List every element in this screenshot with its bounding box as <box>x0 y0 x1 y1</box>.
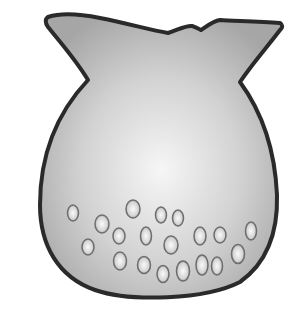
bubble <box>214 227 226 243</box>
bubble <box>246 222 257 240</box>
bubble <box>126 200 140 218</box>
bubble <box>177 261 190 281</box>
bubble <box>173 210 184 226</box>
bubble <box>232 245 245 264</box>
bubble <box>138 257 151 274</box>
sac-diagram <box>0 0 304 309</box>
bubble <box>212 257 223 275</box>
bubble <box>157 266 169 283</box>
bubble <box>194 227 206 245</box>
bubble <box>196 255 208 275</box>
bubble <box>68 205 79 221</box>
sac-outline <box>40 14 282 297</box>
bubble <box>82 239 94 255</box>
bubble <box>114 252 127 270</box>
bubble <box>95 215 109 233</box>
bubble <box>113 228 125 244</box>
bubble <box>164 236 178 254</box>
bubble <box>141 227 152 245</box>
bubble <box>156 207 167 223</box>
